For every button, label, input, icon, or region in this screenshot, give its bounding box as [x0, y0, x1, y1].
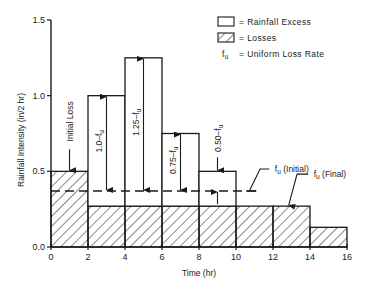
excess-label: 1.25–fu	[131, 108, 142, 136]
loss-bar	[199, 206, 236, 247]
legend-label: = Uniform Loss Rate	[239, 49, 324, 59]
fu-final-label: fu (Final)	[314, 169, 347, 180]
x-tick-label: 10	[231, 252, 241, 262]
loss-bar	[125, 206, 162, 247]
loss-bar	[88, 206, 125, 247]
legend-symbol-fu: fu	[222, 49, 229, 60]
fu-final-leader	[289, 174, 308, 205]
loss-bar	[51, 171, 88, 247]
y-tick-label: 0.5	[32, 166, 45, 176]
x-tick-label: 14	[305, 252, 315, 262]
legend-label: = Losses	[239, 33, 276, 43]
x-tick-label: 2	[85, 252, 90, 262]
x-tick-label: 0	[48, 252, 53, 262]
rainfall-chart: 02468101214160.00.51.01.5 Initial Loss1.…	[0, 0, 369, 288]
loss-bar	[310, 227, 347, 247]
legend: = Rainfall Excess= Lossesfu= Uniform Los…	[218, 17, 324, 60]
excess-label: 0.75–fu	[168, 146, 179, 174]
y-axis-label: Rainfall Intensity (in/2 hr)	[16, 93, 26, 187]
initial-loss-label: Initial Loss	[65, 101, 75, 141]
loss-bar	[236, 206, 273, 247]
y-tick-label: 1.0	[32, 91, 45, 101]
loss-bar	[162, 206, 199, 247]
y-tick-label: 0.0	[32, 242, 45, 252]
x-tick-label: 4	[122, 252, 127, 262]
x-axis-label: Time (hr)	[182, 268, 216, 278]
fu-initial-label: fu (Initial)	[275, 164, 309, 175]
x-tick-label: 8	[196, 252, 201, 262]
loss-bar	[273, 206, 310, 247]
excess-label: 0.50–fu	[213, 124, 224, 152]
legend-label: = Rainfall Excess	[239, 17, 311, 27]
y-tick-label: 1.5	[32, 15, 45, 25]
legend-swatch-losses	[218, 33, 234, 42]
fu-initial-leader	[250, 169, 269, 190]
x-tick-label: 16	[342, 252, 352, 262]
x-tick-label: 6	[159, 252, 164, 262]
x-tick-label: 12	[268, 252, 278, 262]
legend-swatch-excess	[218, 17, 234, 26]
